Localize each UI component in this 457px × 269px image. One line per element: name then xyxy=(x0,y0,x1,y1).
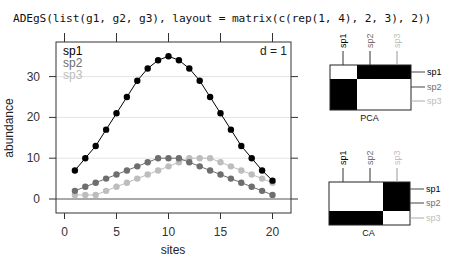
data-point-sp3 xyxy=(134,175,140,181)
row-label-sp3: sp3 xyxy=(427,96,442,106)
cell-block xyxy=(357,79,411,110)
data-point-sp2 xyxy=(238,179,244,185)
data-point-sp2 xyxy=(145,159,151,165)
main-plot: 051015200102030sitesabundancesp1sp2sp3d … xyxy=(2,33,298,257)
row-label-sp3: sp3 xyxy=(426,213,441,223)
data-point-sp1 xyxy=(259,167,265,173)
data-point-sp1 xyxy=(228,126,234,132)
x-axis-title: sites xyxy=(161,243,186,257)
cell-block xyxy=(383,211,410,225)
ca-panel: sp1sp2sp3sp1sp2sp3CA xyxy=(329,150,441,238)
data-point-sp2 xyxy=(82,184,88,190)
data-point-sp2 xyxy=(186,159,192,165)
data-point-sp2 xyxy=(207,167,213,173)
data-point-sp3 xyxy=(207,155,213,161)
data-point-sp2 xyxy=(93,179,99,185)
data-point-sp1 xyxy=(113,110,119,116)
data-point-sp2 xyxy=(165,155,171,161)
data-point-sp3 xyxy=(228,163,234,169)
row-label-sp2: sp2 xyxy=(426,198,441,208)
data-point-sp2 xyxy=(269,192,275,198)
data-point-sp1 xyxy=(93,143,99,149)
col-label-sp1: sp1 xyxy=(338,150,348,165)
col-label-sp1: sp1 xyxy=(338,33,348,48)
y-axis-title: abundance xyxy=(2,98,16,158)
cell-block xyxy=(329,182,383,211)
data-point-sp2 xyxy=(259,188,265,194)
data-point-sp1 xyxy=(82,155,88,161)
x-tick-label: 20 xyxy=(266,225,280,239)
data-point-sp1 xyxy=(165,53,171,59)
col-label-sp2: sp2 xyxy=(365,33,375,48)
cell-block xyxy=(357,65,411,79)
data-point-sp3 xyxy=(249,171,255,177)
data-point-sp3 xyxy=(124,179,130,185)
cell-block xyxy=(383,182,410,211)
data-point-sp3 xyxy=(217,159,223,165)
data-point-sp2 xyxy=(124,167,130,173)
row-label-sp2: sp2 xyxy=(427,82,442,92)
data-point-sp1 xyxy=(238,143,244,149)
data-point-sp2 xyxy=(217,171,223,177)
data-point-sp3 xyxy=(259,175,265,181)
x-tick-label: 0 xyxy=(61,225,68,239)
cell-block xyxy=(329,211,383,225)
data-point-sp3 xyxy=(197,155,203,161)
data-point-sp1 xyxy=(103,126,109,132)
legend-item-sp3: sp3 xyxy=(63,68,83,82)
data-point-sp3 xyxy=(155,167,161,173)
data-point-sp2 xyxy=(103,175,109,181)
y-tick-label: 10 xyxy=(27,151,41,165)
chart-canvas: 051015200102030sitesabundancesp1sp2sp3d … xyxy=(0,0,457,269)
series-line-sp1 xyxy=(75,56,273,180)
data-point-sp1 xyxy=(155,57,161,63)
plot-frame xyxy=(56,42,291,213)
data-point-sp3 xyxy=(103,188,109,194)
data-point-sp3 xyxy=(238,167,244,173)
data-point-sp3 xyxy=(93,192,99,198)
col-label-sp2: sp2 xyxy=(365,150,375,165)
data-point-sp1 xyxy=(197,77,203,83)
data-point-sp2 xyxy=(72,188,78,194)
data-point-sp1 xyxy=(269,177,275,183)
scale-annotation: d = 1 xyxy=(260,44,287,58)
x-tick-label: 5 xyxy=(113,225,120,239)
data-point-sp1 xyxy=(217,110,223,116)
row-label-sp1: sp1 xyxy=(427,67,442,77)
data-point-sp2 xyxy=(228,175,234,181)
panel-title: PCA xyxy=(360,113,379,123)
data-point-sp2 xyxy=(249,184,255,190)
data-point-sp2 xyxy=(155,155,161,161)
y-tick-label: 0 xyxy=(33,192,40,206)
x-tick-label: 10 xyxy=(162,225,176,239)
data-point-sp3 xyxy=(82,192,88,198)
panel-title: CA xyxy=(362,228,375,238)
col-label-sp3: sp3 xyxy=(392,150,402,165)
data-point-sp1 xyxy=(124,94,130,100)
data-point-sp1 xyxy=(249,155,255,161)
data-point-sp3 xyxy=(165,163,171,169)
row-label-sp1: sp1 xyxy=(426,184,441,194)
data-point-sp2 xyxy=(176,155,182,161)
data-point-sp2 xyxy=(197,163,203,169)
data-point-sp1 xyxy=(145,65,151,71)
data-point-sp1 xyxy=(176,57,182,63)
data-point-sp1 xyxy=(186,65,192,71)
data-point-sp3 xyxy=(145,171,151,177)
data-point-sp1 xyxy=(134,77,140,83)
data-point-sp2 xyxy=(113,171,119,177)
data-point-sp3 xyxy=(113,184,119,190)
y-tick-label: 20 xyxy=(27,110,41,124)
col-label-sp3: sp3 xyxy=(392,33,402,48)
data-point-sp1 xyxy=(72,167,78,173)
data-point-sp2 xyxy=(134,163,140,169)
data-point-sp1 xyxy=(207,94,213,100)
x-tick-label: 15 xyxy=(214,225,228,239)
y-tick-label: 30 xyxy=(27,70,41,84)
pca-panel: sp1sp2sp3sp1sp2sp3PCA xyxy=(330,33,442,123)
cell-block xyxy=(330,79,357,110)
cell-block xyxy=(330,65,357,79)
